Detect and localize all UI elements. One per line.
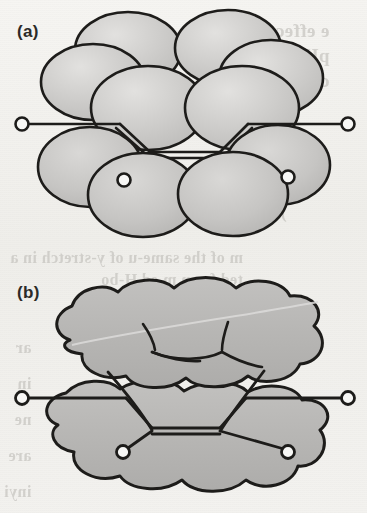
hydrogen-atom-right-upper	[342, 392, 355, 405]
hydrogen-atom-right-lower	[282, 171, 295, 184]
hydrogen-atom-right-upper	[342, 118, 355, 131]
panel-a-graphic	[16, 10, 355, 237]
p-lobe	[178, 152, 288, 236]
hydrogen-atom-left-upper	[16, 392, 29, 405]
hydrogen-atom-right-lower	[282, 446, 295, 459]
panel-label-a: (a)	[17, 22, 39, 42]
pi-cloud-upper	[57, 278, 323, 388]
ethylene-pi-bond-figure	[0, 0, 367, 513]
hydrogen-atom-left-lower	[117, 446, 130, 459]
figure-page: e effect i pH i cra re no d a ) is m of …	[0, 0, 367, 513]
hydrogen-atom-left-lower	[118, 174, 131, 187]
panel-b-graphic	[16, 278, 355, 492]
hydrogen-atom-left-upper	[16, 118, 29, 131]
panel-label-b: (b)	[17, 283, 40, 303]
